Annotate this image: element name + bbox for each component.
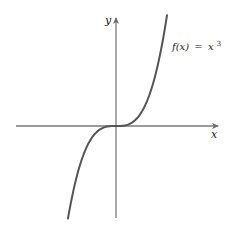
y-axis-label: y xyxy=(104,14,112,27)
curve-label-fx: f(x) xyxy=(171,41,189,52)
curve-label-eq: = xyxy=(194,41,202,52)
curve-label-exponent: 3 xyxy=(217,40,221,48)
curve-label: f(x) = x 3 xyxy=(171,40,221,52)
x-axis-label: x xyxy=(211,128,218,141)
cubic-function-graph: y x f(x) = x 3 xyxy=(0,0,231,233)
curve-label-x: x xyxy=(208,41,214,52)
cubic-curve xyxy=(68,15,167,218)
